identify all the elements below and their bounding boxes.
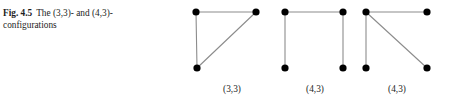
configuration-3-3-edge-left [196, 12, 197, 68]
configuration-4-3-star-node-bottom-left [362, 64, 369, 71]
configuration-3-3-node-top-right [252, 8, 259, 15]
configuration-4-3-u-shape-node-bottom-right [339, 64, 346, 71]
configuration-4-3-u-shape-node-top-right [339, 8, 346, 15]
configuration-3-3-node-top-left [192, 8, 199, 15]
graph-label-config-1: (3,3) [205, 84, 259, 95]
configuration-4-3-star-node-top-left [362, 8, 369, 15]
configuration-4-3-star-edge-diagonal [366, 12, 427, 68]
graph-label-config-3: (4,3) [370, 84, 424, 95]
graph-configuration-4-3-u-shape [281, 8, 346, 71]
configuration-4-3-u-shape-node-bottom-left [281, 64, 288, 71]
configuration-4-3-u-shape-node-top-left [281, 8, 288, 15]
graph-configuration-4-3-star [362, 8, 430, 71]
configuration-4-3-star-node-top-right [423, 8, 430, 15]
configuration-4-3-star-node-bottom-right [423, 64, 430, 71]
figure-graphics: (3,3) (4,3) (4,3) [0, 0, 452, 110]
configuration-3-3-edge-diagonal [197, 12, 256, 68]
graph-configuration-3-3 [192, 8, 259, 71]
configuration-3-3-node-bottom-left [193, 64, 200, 71]
graph-label-config-2: (4,3) [288, 84, 342, 95]
